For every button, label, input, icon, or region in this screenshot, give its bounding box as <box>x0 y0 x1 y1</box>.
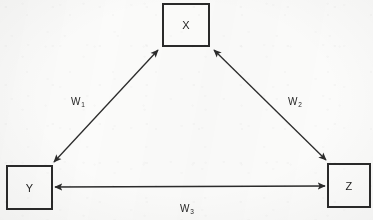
edge-w3-line <box>55 186 325 187</box>
edge-label-w1-base: W <box>71 96 81 107</box>
edge-w1-line <box>54 50 158 162</box>
edge-label-w2: W2 <box>288 96 301 107</box>
diagram-canvas: X Y Z W1 W2 W3 <box>0 0 373 220</box>
edge-label-w3: W3 <box>180 203 193 214</box>
edge-label-w3-subscript: 3 <box>190 208 194 215</box>
node-x-label: X <box>182 19 190 31</box>
node-x[interactable]: X <box>162 3 210 47</box>
node-z-label: Z <box>345 180 352 192</box>
edge-label-w1-subscript: 1 <box>81 101 85 108</box>
edge-label-w3-base: W <box>180 203 190 214</box>
edge-label-w1: W1 <box>71 96 84 107</box>
node-y[interactable]: Y <box>6 165 53 210</box>
node-z[interactable]: Z <box>327 163 371 208</box>
node-y-label: Y <box>26 182 34 194</box>
edge-w2-line <box>214 50 326 160</box>
edge-label-w2-base: W <box>288 96 298 107</box>
edge-label-w2-subscript: 2 <box>298 101 302 108</box>
